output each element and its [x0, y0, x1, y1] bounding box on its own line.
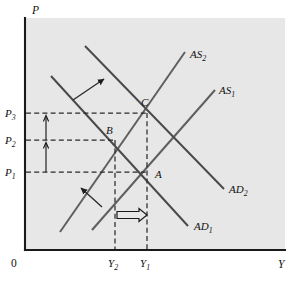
point-label-a: A	[154, 168, 162, 180]
ad-as-figure: P Y 0 P3 P2 P1 Y2 Y1 AS2	[0, 0, 299, 287]
output-axis-label: Y	[278, 258, 286, 270]
origin-label: 0	[11, 257, 17, 269]
tick-label-p1: P1	[4, 166, 16, 181]
diagram-canvas: P Y 0 P3 P2 P1 Y2 Y1 AS2	[0, 0, 299, 287]
output-tick-labels: Y2 Y1	[108, 257, 150, 272]
price-tick-labels: P3 P2 P1	[4, 107, 16, 181]
point-label-c: C	[141, 96, 149, 108]
tick-label-p3: P3	[4, 107, 16, 122]
tick-label-y1: Y1	[140, 257, 150, 272]
price-axis-label: P	[31, 4, 39, 16]
tick-label-y2: Y2	[108, 257, 118, 272]
point-label-b: B	[106, 124, 113, 136]
plot-background	[25, 18, 285, 250]
tick-label-p2: P2	[4, 134, 16, 149]
